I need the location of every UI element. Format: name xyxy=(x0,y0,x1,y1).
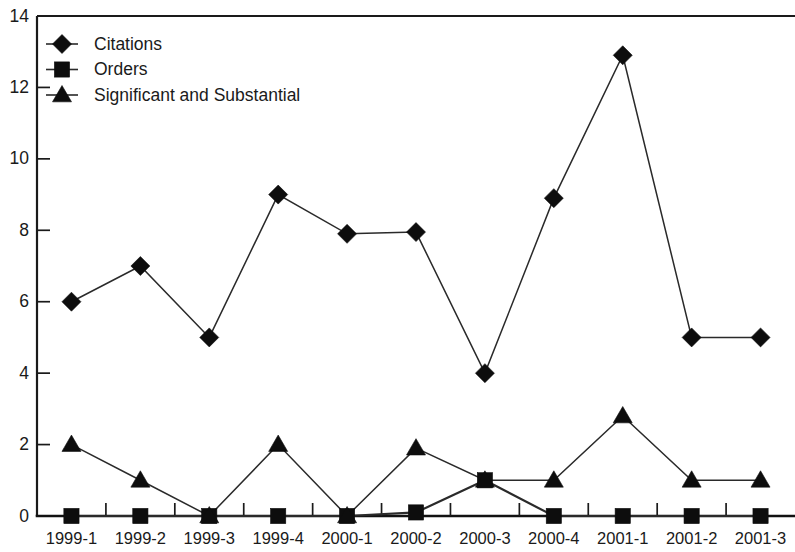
x-axis-labels: 1999-11999-21999-31999-42000-12000-22000… xyxy=(46,529,786,547)
x-tick-label: 2001-2 xyxy=(666,529,717,547)
diamond-icon xyxy=(53,35,72,54)
triangle-icon xyxy=(53,86,72,102)
data-point xyxy=(407,223,426,242)
data-point xyxy=(613,407,632,423)
legend-label: Significant and Substantial xyxy=(94,85,300,105)
x-tick-label: 2000-3 xyxy=(459,529,510,547)
data-point xyxy=(269,435,288,451)
x-tick-label: 1999-4 xyxy=(252,529,303,547)
x-tick-label: 1999-2 xyxy=(115,529,166,547)
x-tick-label: 1999-1 xyxy=(46,529,97,547)
x-tick-label: 2001-3 xyxy=(735,529,786,547)
data-point xyxy=(271,508,286,523)
data-point xyxy=(64,508,79,523)
y-tick-label: 10 xyxy=(10,148,30,168)
y-tick-label: 2 xyxy=(19,434,29,454)
data-point xyxy=(615,508,630,523)
data-point xyxy=(753,508,768,523)
data-point xyxy=(407,439,426,455)
data-point xyxy=(475,364,494,383)
data-point xyxy=(751,328,770,347)
data-point xyxy=(133,508,148,523)
x-tick-label: 2001-1 xyxy=(597,529,648,547)
data-point xyxy=(408,505,423,520)
x-tick-label: 2000-4 xyxy=(528,529,579,547)
y-tick-label: 4 xyxy=(19,363,29,383)
series-path xyxy=(71,416,760,516)
x-tick-label: 2000-2 xyxy=(390,529,441,547)
legend-label: Orders xyxy=(94,59,148,79)
data-point xyxy=(544,189,563,208)
data-point xyxy=(751,471,770,487)
y-axis: 02468101214 xyxy=(10,6,50,526)
y-tick-label: 0 xyxy=(19,506,29,526)
x-tick-label: 1999-3 xyxy=(184,529,235,547)
series-layer xyxy=(62,46,770,524)
data-point xyxy=(62,292,81,311)
line-chart: 02468101214 1999-11999-21999-31999-42000… xyxy=(0,0,795,552)
data-point xyxy=(684,508,699,523)
y-tick-label: 12 xyxy=(10,77,29,97)
series-significant-and-substantial xyxy=(71,416,760,516)
legend-label: Citations xyxy=(94,34,162,54)
data-point xyxy=(613,46,632,65)
square-icon xyxy=(54,62,69,77)
x-tick-label: 2000-1 xyxy=(321,529,372,547)
y-tick-label: 8 xyxy=(19,220,29,240)
y-tick-label: 14 xyxy=(10,6,30,26)
data-point xyxy=(62,435,81,451)
data-point xyxy=(269,185,288,204)
chart-legend: CitationsOrdersSignificant and Substanti… xyxy=(46,34,300,105)
y-tick-label: 6 xyxy=(19,291,29,311)
data-point xyxy=(546,508,561,523)
data-point xyxy=(338,224,357,243)
data-point xyxy=(682,328,701,347)
chart-canvas: 02468101214 1999-11999-21999-31999-42000… xyxy=(0,0,795,552)
data-point xyxy=(131,471,150,487)
